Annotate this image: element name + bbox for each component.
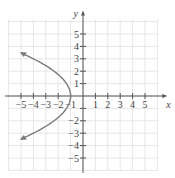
y-tick-label: −3 [68, 128, 79, 139]
y-axis-arrow-icon [81, 10, 85, 15]
parabola-chart: −5−4−3−2−11234554321−2−3−4−5xy [0, 0, 175, 178]
y-tick-label: 1 [74, 78, 79, 89]
x-tick-label: −2 [53, 99, 64, 110]
x-tick-label: 1 [93, 99, 98, 110]
x-tick-label: 2 [105, 99, 110, 110]
x-tick-label: −5 [16, 99, 27, 110]
y-tick-label: −5 [68, 153, 79, 164]
x-tick-label: 4 [130, 99, 135, 110]
x-axis-arrow-icon [162, 94, 167, 98]
x-tick-label: −4 [28, 99, 39, 110]
x-tick-label: 3 [118, 99, 123, 110]
tick-labels: −5−4−3−2−11234554321−2−3−4−5xy [16, 8, 172, 164]
y-tick-label: −4 [68, 140, 79, 151]
y-axis-label: y [73, 8, 79, 19]
x-tick-label: 5 [143, 99, 148, 110]
y-tick-label: 3 [74, 53, 79, 64]
axes [5, 10, 167, 172]
y-tick-label: −2 [68, 115, 79, 126]
y-tick-label: 5 [74, 29, 79, 40]
y-tick-label: 2 [74, 66, 79, 77]
x-axis-label: x [165, 99, 171, 110]
y-tick-label: 4 [74, 41, 79, 52]
x-tick-label: −3 [40, 99, 51, 110]
